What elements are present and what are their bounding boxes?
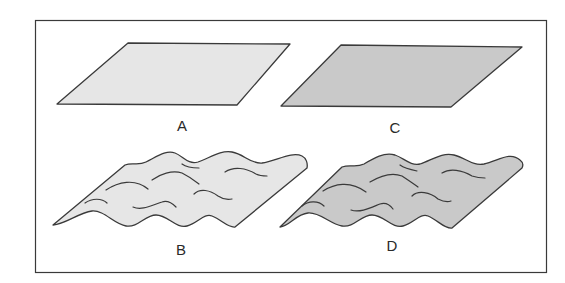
surface-d-wavy-dark [280,154,523,228]
label-c: C [390,119,401,136]
label-d: D [387,237,398,254]
surface-b-wavy-light [53,152,307,227]
surface-a-flat-light [57,43,290,105]
label-b: B [176,241,186,258]
diagram-canvas [0,0,565,283]
label-a: A [177,117,187,134]
surface-c-flat-dark [281,45,522,107]
